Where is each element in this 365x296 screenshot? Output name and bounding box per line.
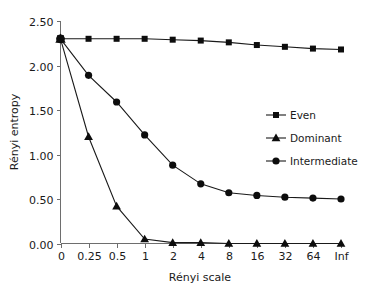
x-tick-label: 64 (307, 250, 321, 263)
data-point-circle (56, 34, 65, 43)
data-point-square (198, 38, 204, 44)
data-point-circle (169, 162, 176, 169)
y-axis-ticks (57, 22, 61, 245)
data-point-circle (225, 189, 232, 196)
data-point-square (338, 46, 344, 52)
y-axis-tick-labels: 0.000.501.001.502.002.50 (29, 16, 54, 252)
data-point-circle (272, 157, 279, 164)
y-tick-label: 0.00 (29, 239, 54, 252)
x-axis-tick-labels: 00.250.51248163264Inf (58, 250, 350, 263)
data-point-square (282, 44, 288, 50)
y-axis-title: Rényi entropy (8, 93, 21, 170)
data-point-circle (197, 180, 204, 187)
data-point-circle (281, 194, 288, 201)
x-tick-label: 32 (279, 250, 293, 263)
data-point-square (114, 36, 120, 42)
data-point-square (273, 112, 279, 118)
x-axis-title: Rényi scale (169, 271, 232, 284)
data-point-circle (253, 192, 260, 199)
data-point-square (254, 42, 260, 48)
y-tick-label: 2.00 (29, 61, 54, 74)
data-point-circle (113, 98, 120, 105)
x-tick-label: 16 (251, 250, 265, 263)
data-point-square (226, 39, 232, 45)
legend-label: Dominant (290, 132, 342, 144)
x-tick-label: 0 (58, 250, 65, 263)
data-point-square (142, 36, 148, 42)
x-tick-label: 8 (226, 250, 233, 263)
legend-item-dominant[interactable]: Dominant (266, 132, 342, 144)
x-tick-label: 0.25 (77, 250, 102, 263)
legend-item-even[interactable]: Even (266, 109, 316, 121)
x-tick-label: 4 (198, 250, 205, 263)
y-tick-label: 2.50 (29, 16, 54, 29)
legend-label: Even (290, 109, 316, 121)
legend-label: Intermediate (290, 155, 358, 167)
x-tick-label: 2 (170, 250, 177, 263)
x-tick-label: 0.5 (109, 250, 127, 263)
y-tick-label: 1.00 (29, 150, 54, 163)
data-point-circle (309, 195, 316, 202)
legend-layer: EvenDominantIntermediate (266, 109, 358, 167)
data-point-square (310, 46, 316, 52)
data-point-square (86, 36, 92, 42)
data-point-square (170, 37, 176, 43)
data-point-circle (141, 131, 148, 138)
y-tick-label: 1.50 (29, 105, 54, 118)
data-point-triangle (112, 202, 121, 210)
x-tick-label: 1 (142, 250, 149, 263)
data-point-circle (85, 72, 92, 79)
y-tick-label: 0.50 (29, 194, 54, 207)
renyi-entropy-chart: 0.000.501.001.502.002.50 00.250.51248163… (0, 0, 365, 296)
legend-item-intermediate[interactable]: Intermediate (266, 155, 358, 167)
x-tick-label: Inf (334, 250, 349, 263)
data-point-circle (337, 195, 344, 202)
data-point-triangle (84, 132, 93, 140)
series-even (57, 35, 344, 52)
chart-canvas: 0.000.501.001.502.002.50 00.250.51248163… (0, 0, 365, 296)
